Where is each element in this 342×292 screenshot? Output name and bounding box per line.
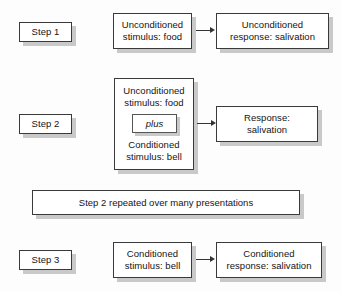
classical-conditioning-diagram: Step 1 Unconditioned stimulus: food Unco… <box>0 0 342 292</box>
step-2-plus-text: plus <box>146 118 163 129</box>
step-1-stimulus-line-2: stimulus: food <box>123 31 182 43</box>
step-1-response-line-1: Unconditioned <box>242 19 303 31</box>
step-3-label-text: Step 3 <box>32 254 60 266</box>
step-2-stimulus-line-2: stimulus: food <box>123 97 184 109</box>
step-1-response-box: Unconditioned response: salivation <box>216 13 329 49</box>
step-1-stimulus-line-1: Unconditioned <box>122 19 183 31</box>
step-3-stimulus-line-2: stimulus: bell <box>125 260 181 272</box>
step-2-label-box: Step 2 <box>19 114 72 134</box>
repeat-banner: Step 2 repeated over many presentations <box>32 190 300 215</box>
repeat-banner-text: Step 2 repeated over many presentations <box>79 197 253 208</box>
step-2-response-line-1: Response: <box>244 112 290 124</box>
step-1-label-text: Step 1 <box>32 26 60 38</box>
step-3-label-box: Step 3 <box>19 250 72 270</box>
step-3-response-box: Conditioned response: salivation <box>216 242 322 278</box>
step-2-stimulus-line-3: Conditioned <box>126 139 182 151</box>
step-3-response-line-2: response: salivation <box>227 260 312 272</box>
step-3-arrow-right-icon <box>196 255 215 264</box>
step-2-stimulus-line-4: stimulus: bell <box>126 151 182 163</box>
step-1-stimulus-box: Unconditioned stimulus: food <box>113 13 192 49</box>
step-1-arrow-right-icon <box>196 26 215 35</box>
step-2-stimulus-line-1: Unconditioned <box>123 85 184 97</box>
step-3-response-line-1: Conditioned <box>243 248 294 260</box>
step-2-label-text: Step 2 <box>32 118 60 130</box>
step-1-response-line-2: response: salivation <box>230 31 315 43</box>
step-2-arrow-right-icon <box>197 119 216 128</box>
step-1-label-box: Step 1 <box>19 22 72 42</box>
step-2-response-line-2: salivation <box>247 124 287 136</box>
step-2-plus-box: plus <box>132 114 177 133</box>
step-2-response-box: Response: salivation <box>216 106 318 142</box>
step-3-stimulus-box: Conditioned stimulus: bell <box>113 242 192 278</box>
step-3-stimulus-line-1: Conditioned <box>127 248 178 260</box>
